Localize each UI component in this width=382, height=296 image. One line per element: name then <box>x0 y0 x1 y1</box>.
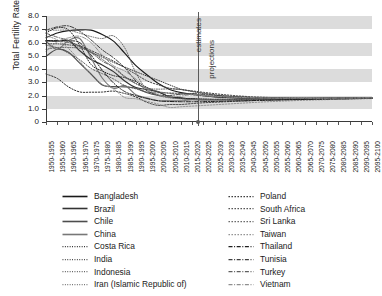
x-axis-label: 2035-2040 <box>240 141 247 173</box>
x-axis-tick <box>147 122 148 125</box>
x-axis-label: 1990-1995 <box>139 141 146 173</box>
y-axis-tick <box>42 29 46 30</box>
legend-line-swatch <box>62 267 88 276</box>
x-axis-label: 2015-2020 <box>195 141 202 173</box>
legend-item[interactable]: Costa Rica <box>62 240 187 253</box>
y-axis-label: 4.0 <box>15 65 39 73</box>
legend-line-swatch <box>62 255 88 264</box>
legend-item[interactable]: Bangladesh <box>62 190 187 203</box>
x-axis-tick <box>203 122 204 125</box>
x-axis-label: 2060-2065 <box>296 141 303 173</box>
legend-item-label: Costa Rica <box>94 242 135 250</box>
legend-column-right: PolandSouth AfricaSri LankaTaiwanThailan… <box>228 190 305 291</box>
x-axis-label: 2005-2010 <box>173 141 180 173</box>
x-axis-tick <box>170 122 171 125</box>
x-axis-label: 1965-1970 <box>83 141 90 173</box>
x-axis-tick <box>181 122 182 125</box>
y-axis-label: 6.0 <box>15 39 39 47</box>
x-axis-label: 2080-2085 <box>341 141 348 173</box>
legend-item[interactable]: Thailand <box>228 240 305 253</box>
legend-item-label: India <box>94 255 112 263</box>
legend-line-swatch <box>62 242 88 251</box>
x-axis-label: 2025-2030 <box>218 141 225 173</box>
legend-line-swatch <box>62 217 88 226</box>
legend-item-label: Indonesia <box>94 268 130 276</box>
legend-item-label: Iran (Islamic Republic of) <box>94 280 187 288</box>
x-axis-tick <box>248 122 249 125</box>
legend-item[interactable]: Indonesia <box>62 266 187 279</box>
legend-item[interactable]: South Africa <box>228 203 305 216</box>
x-axis-label: 1985-1990 <box>128 141 135 173</box>
legend-item-label: Tunisia <box>260 255 287 263</box>
x-axis-label: 2075-2080 <box>330 141 337 173</box>
x-axis-label: 1970-1975 <box>94 141 101 173</box>
y-axis-tick <box>42 43 46 44</box>
x-axis-tick <box>125 122 126 125</box>
y-axis-label: 5.0 <box>15 52 39 60</box>
legend-column-left: BangladeshBrazilChileChinaCosta RicaIndi… <box>62 190 187 291</box>
legend-item[interactable]: Tunisia <box>228 253 305 266</box>
x-axis-label: 2090-2095 <box>364 141 371 173</box>
legend-item-label: Brazil <box>94 205 115 213</box>
y-axis-label: 1.0 <box>15 105 39 113</box>
legend-item-label: Bangladesh <box>94 192 138 200</box>
plot-area: 01.02.03.04.05.06.07.08.01950-19551955-1… <box>46 16 372 122</box>
y-axis-tick <box>42 96 46 97</box>
x-axis-tick <box>260 122 261 125</box>
annotation-estimates: estimates <box>195 18 203 52</box>
y-axis-tick <box>42 16 46 17</box>
x-axis-label: 1960-1965 <box>71 141 78 173</box>
x-axis-tick <box>226 122 227 125</box>
legend-item-label: South Africa <box>260 205 305 213</box>
legend-item[interactable]: India <box>62 253 187 266</box>
y-axis-label: 3.0 <box>15 78 39 86</box>
y-axis-tick <box>42 82 46 83</box>
legend-line-swatch <box>62 204 88 213</box>
legend-item-label: Poland <box>260 192 286 200</box>
y-axis-label: 0 <box>15 118 39 126</box>
y-axis-label: 8.0 <box>15 12 39 20</box>
legend-item[interactable]: Chile <box>62 215 187 228</box>
legend-item-label: Vietnam <box>260 280 291 288</box>
legend-line-swatch <box>228 217 254 226</box>
x-axis-tick <box>271 122 272 125</box>
legend-item[interactable]: Turkey <box>228 266 305 279</box>
x-axis-label: 1955-1960 <box>60 141 67 173</box>
legend-line-swatch <box>62 280 88 289</box>
legend-item-label: Turkey <box>260 268 285 276</box>
x-axis-label: 2020-2025 <box>206 141 213 173</box>
x-axis-tick <box>361 122 362 125</box>
legend-item[interactable]: Sri Lanka <box>228 215 305 228</box>
legend-item[interactable]: China <box>62 228 187 241</box>
x-axis-tick <box>57 122 58 125</box>
x-axis-label: 2085-2090 <box>353 141 360 173</box>
x-axis-label: 2000-2005 <box>161 141 168 173</box>
legend-line-swatch <box>228 242 254 251</box>
y-axis-tick <box>42 56 46 57</box>
legend-line-swatch <box>62 192 88 201</box>
x-axis-label: 2095-2100 <box>375 141 382 173</box>
legend-item-label: Thailand <box>260 242 292 250</box>
divider-marker <box>196 120 200 124</box>
x-axis-label: 2040-2045 <box>251 141 258 173</box>
legend-item[interactable]: Iran (Islamic Republic of) <box>62 278 187 291</box>
annotation-projections: projections <box>208 40 216 79</box>
x-axis-tick <box>282 122 283 125</box>
legend-line-swatch <box>228 204 254 213</box>
legend-item[interactable]: Poland <box>228 190 305 203</box>
legend: BangladeshBrazilChileChinaCosta RicaIndi… <box>0 190 378 294</box>
x-axis-tick <box>136 122 137 125</box>
legend-item[interactable]: Vietnam <box>228 278 305 291</box>
x-axis-tick <box>293 122 294 125</box>
x-axis-label: 1950-1955 <box>49 141 56 173</box>
legend-item[interactable]: Taiwan <box>228 228 305 241</box>
x-axis-tick <box>316 122 317 125</box>
x-axis-tick <box>350 122 351 125</box>
x-axis-line <box>46 121 372 122</box>
legend-item[interactable]: Brazil <box>62 203 187 216</box>
legend-line-swatch <box>228 230 254 239</box>
x-axis-tick <box>215 122 216 125</box>
legend-item-label: Taiwan <box>260 230 286 238</box>
x-axis-tick <box>102 122 103 125</box>
y-axis-label: 2.0 <box>15 92 39 100</box>
